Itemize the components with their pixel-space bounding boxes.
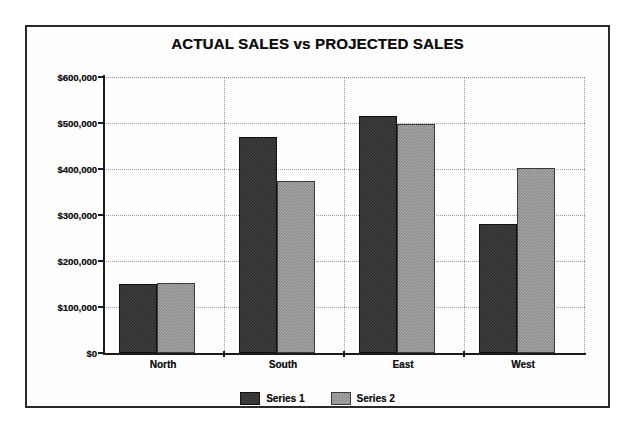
x-axis-tick-mark: [343, 351, 345, 357]
gridline-vertical: [464, 77, 465, 353]
legend-label-series-2: Series 2: [357, 393, 395, 404]
y-axis-tick-label: $100,000: [27, 302, 97, 313]
x-axis-category-label-north: North: [150, 359, 177, 370]
bar-west-series-2: [517, 168, 555, 353]
y-axis-tick-label: $200,000: [27, 256, 97, 267]
legend-swatch-icon-series-1: [240, 392, 260, 405]
bar-north-series-2: [157, 283, 195, 353]
legend-swatch-icon-series-2: [331, 392, 351, 405]
y-axis-tick-label: $300,000: [27, 210, 97, 221]
y-axis-tick-label: $500,000: [27, 118, 97, 129]
chart-frame: ACTUAL SALES vs PROJECTED SALES $600,000…: [25, 25, 610, 408]
bar-east-series-1: [359, 116, 397, 353]
plot-area: [104, 77, 585, 353]
bar-north-series-1: [119, 284, 157, 353]
x-axis-tick-mark: [223, 351, 225, 357]
y-axis-tick-label: $400,000: [27, 164, 97, 175]
bar-east-series-2: [397, 124, 435, 353]
x-axis-category-label-south: South: [269, 359, 297, 370]
legend-entry-series-2: Series 2: [331, 392, 395, 405]
y-axis-tick-labels: $600,000 $500,000 $400,000 $300,000 $200…: [27, 27, 97, 406]
y-axis-line: [103, 75, 105, 355]
x-axis-tick-mark: [463, 351, 465, 357]
gridline-vertical: [344, 77, 345, 353]
bar-west-series-1: [479, 224, 517, 353]
gridline-vertical: [224, 77, 225, 353]
y-axis-tick-label: $0: [27, 348, 97, 359]
chart-title: ACTUAL SALES vs PROJECTED SALES: [27, 35, 608, 52]
bar-south-series-1: [239, 137, 277, 353]
chart-legend: Series 1 Series 2: [27, 392, 608, 405]
gridline-vertical: [584, 77, 585, 353]
x-axis-category-label-west: West: [511, 359, 535, 370]
legend-label-series-1: Series 1: [266, 393, 304, 404]
x-axis-category-label-east: East: [392, 359, 413, 370]
bar-south-series-2: [277, 181, 315, 353]
y-axis-tick-label: $600,000: [27, 72, 97, 83]
legend-entry-series-1: Series 1: [240, 392, 304, 405]
